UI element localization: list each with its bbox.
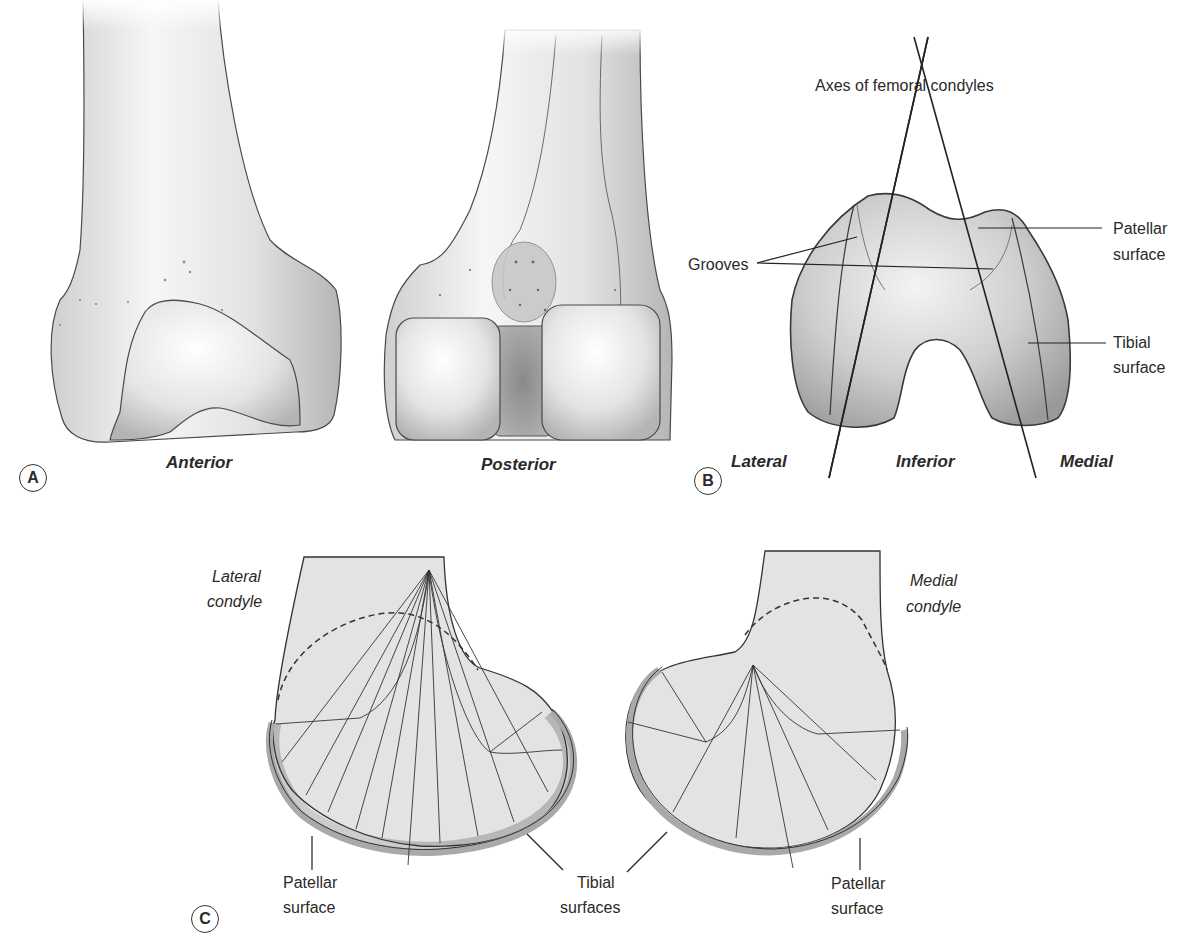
grooves-label: Grooves [688, 255, 748, 274]
patellar-surface-label-left-line1: Patellar [283, 873, 337, 892]
femur-posterior-illustration [380, 25, 680, 440]
view-label-anterior: Anterior [166, 453, 232, 472]
tibial-surface-label-b-line1: Tibial [1113, 333, 1151, 352]
femur-anterior-illustration [51, 0, 360, 442]
tibial-surfaces-label-line1: Tibial [577, 873, 615, 892]
panel-marker-c: C [191, 905, 219, 933]
medial-condyle-label-line2: condyle [906, 597, 961, 617]
patellar-surface-label-b-line1: Patellar [1113, 219, 1167, 238]
panel-marker-a: A [19, 464, 47, 492]
lateral-condyle-label-line1: Lateral [212, 567, 261, 587]
orientation-label-lateral: Lateral [731, 452, 787, 471]
lateral-condyle-label-line2: condyle [207, 592, 262, 612]
orientation-label-medial: Medial [1060, 452, 1113, 471]
orientation-label-inferior: Inferior [896, 452, 955, 471]
medial-condyle-section [626, 551, 908, 868]
patellar-surface-label-left-line2: surface [283, 898, 335, 917]
patellar-surface-label-right-line2: surface [831, 899, 883, 918]
lateral-condyle-section [269, 557, 573, 865]
patellar-surface-label-right-line1: Patellar [831, 874, 885, 893]
view-label-posterior: Posterior [481, 455, 556, 474]
patellar-surface-label-b-line2: surface [1113, 245, 1165, 264]
tibial-surface-label-b-line2: surface [1113, 358, 1165, 377]
panel-marker-b: B [694, 467, 722, 495]
figure-canvas [0, 0, 1199, 946]
axes-of-femoral-condyles-label: Axes of femoral condyles [815, 76, 994, 95]
medial-condyle-label-line1: Medial [910, 571, 957, 591]
tibial-surfaces-label-line2: surfaces [560, 898, 620, 917]
